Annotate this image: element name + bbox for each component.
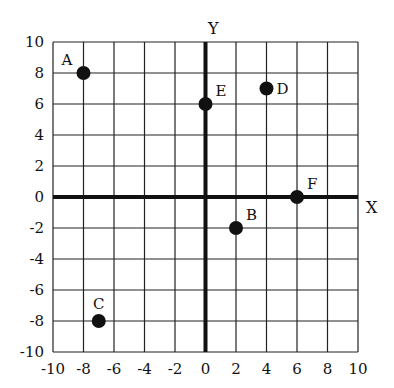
y-tick-label: -4 <box>29 250 44 268</box>
y-tick-label: 8 <box>34 64 44 82</box>
data-point-label-f: F <box>307 175 317 193</box>
x-tick-label: 8 <box>323 360 333 378</box>
y-tick-labels: -10-8-6-4-20246810 <box>20 33 44 361</box>
y-tick-label: 0 <box>34 188 44 206</box>
y-tick-label: -8 <box>29 312 44 330</box>
data-point-label-a: A <box>61 51 73 69</box>
data-points: ABCDEF <box>61 51 318 328</box>
x-tick-label: -4 <box>137 360 152 378</box>
y-tick-label: -2 <box>29 219 44 237</box>
x-tick-label: 2 <box>231 360 241 378</box>
x-tick-labels: -10-8-6-4-20246810 <box>41 360 368 378</box>
data-point-e <box>199 97 213 111</box>
x-tick-label: 6 <box>292 360 302 378</box>
coordinate-plane-chart: -10-8-6-4-20246810 -10-8-6-4-20246810 AB… <box>0 0 394 388</box>
x-tick-label: 4 <box>262 360 272 378</box>
x-tick-label: -2 <box>168 360 183 378</box>
y-tick-label: -10 <box>20 343 44 361</box>
data-point-label-b: B <box>246 206 257 224</box>
data-point-a <box>77 66 91 80</box>
x-tick-label: 10 <box>348 360 367 378</box>
x-tick-label: -10 <box>41 360 65 378</box>
data-point-label-d: D <box>277 80 289 98</box>
data-point-c <box>92 314 106 328</box>
x-axis-label: X <box>366 198 378 217</box>
y-tick-label: 2 <box>34 157 44 175</box>
data-point-d <box>260 82 274 96</box>
data-point-label-c: C <box>93 295 104 313</box>
y-tick-label: 6 <box>34 95 44 113</box>
x-tick-label: -8 <box>76 360 91 378</box>
y-tick-label: 10 <box>25 33 44 51</box>
y-axis-label: Y <box>207 19 219 38</box>
data-point-f <box>290 190 304 204</box>
data-point-label-e: E <box>216 82 227 100</box>
x-tick-label: 0 <box>201 360 211 378</box>
y-tick-label: -6 <box>29 281 44 299</box>
data-point-b <box>229 221 243 235</box>
x-tick-label: -6 <box>107 360 122 378</box>
y-tick-label: 4 <box>34 126 44 144</box>
